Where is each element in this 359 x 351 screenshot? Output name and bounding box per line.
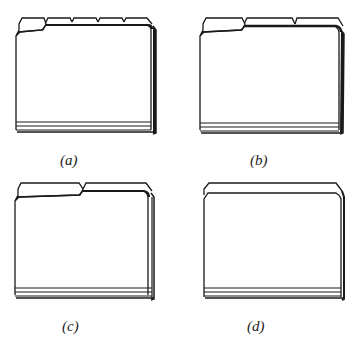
folder-d-straight-cut bbox=[180, 175, 359, 325]
caption-c: (c) bbox=[62, 318, 79, 335]
caption-b: (b) bbox=[250, 152, 268, 169]
folder-a-fifth-cut bbox=[0, 0, 180, 150]
caption-a: (a) bbox=[60, 152, 78, 169]
caption-d: (d) bbox=[247, 318, 265, 335]
folder-a-icon bbox=[0, 0, 180, 150]
folder-b-icon bbox=[180, 0, 359, 150]
folder-c-half-cut bbox=[0, 175, 180, 325]
folder-d-icon bbox=[180, 175, 359, 325]
folder-c-icon bbox=[0, 175, 180, 325]
folder-b-third-cut bbox=[180, 0, 359, 150]
